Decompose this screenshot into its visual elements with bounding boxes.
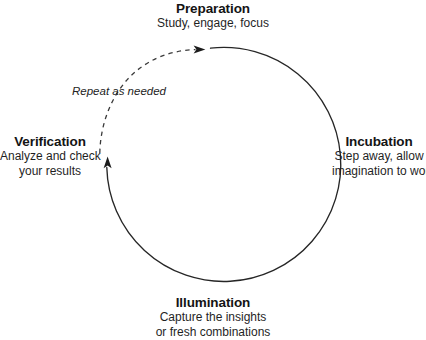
dashed-return-arc <box>100 50 196 153</box>
stage-title-incubation: Incubation <box>332 134 426 149</box>
cycle-annotation-repeat: Repeat as needed <box>72 85 192 98</box>
creative-process-cycle-diagram: Preparation Study, engage, focus Incubat… <box>0 0 426 340</box>
stage-description-illumination-line-2: or fresh combinations <box>0 325 426 340</box>
stage-title-illumination: Illumination <box>0 295 426 310</box>
main-cycle-arc <box>107 47 341 281</box>
stage-description-verification-line-2: your results <box>0 164 100 179</box>
stage-label-preparation: Preparation Study, engage, focus <box>0 1 426 31</box>
stage-label-incubation: Incubation Step away, allow imagination … <box>332 134 426 178</box>
stage-title-preparation: Preparation <box>0 1 426 16</box>
stage-description-illumination-line-1: Capture the insights <box>0 310 426 325</box>
stage-title-verification: Verification <box>0 134 100 149</box>
cycle-annotation-text: Repeat as needed <box>72 85 192 98</box>
stage-description-preparation-line-1: Study, engage, focus <box>0 16 426 31</box>
main-cycle-arrowhead-icon <box>104 157 112 169</box>
stage-description-incubation-line-1: Step away, allow <box>332 149 426 164</box>
stage-description-verification-line-1: Analyze and check <box>0 149 100 164</box>
stage-label-verification: Verification Analyze and check your resu… <box>0 134 100 178</box>
stage-description-incubation-line-2: imagination to work <box>332 164 426 179</box>
stage-label-illumination: Illumination Capture the insights or fre… <box>0 295 426 339</box>
